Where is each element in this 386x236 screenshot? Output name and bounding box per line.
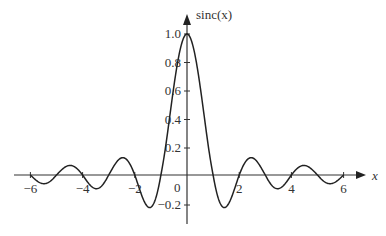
x-tick-label: −6 (23, 181, 37, 196)
y-tick-label: −0.2 (157, 197, 181, 212)
x-ticks: −6−4−2246 (23, 172, 347, 196)
y-axis-label: sinc(x) (196, 7, 232, 22)
y-tick-label: 0.2 (165, 140, 181, 155)
y-tick-label: 0.4 (165, 112, 182, 127)
chart: −6−4−2246 1.00.80.60.40.2−0.2 sinc(x) x … (0, 0, 386, 236)
x-axis-label: x (371, 168, 378, 183)
x-tick-label: 6 (340, 181, 347, 196)
origin-label: 0 (174, 180, 181, 195)
y-tick-label: 1.0 (165, 26, 181, 41)
x-tick-label: 4 (288, 181, 295, 196)
y-axis-arrow-icon (183, 14, 191, 25)
x-axis-arrow-icon (356, 171, 366, 179)
